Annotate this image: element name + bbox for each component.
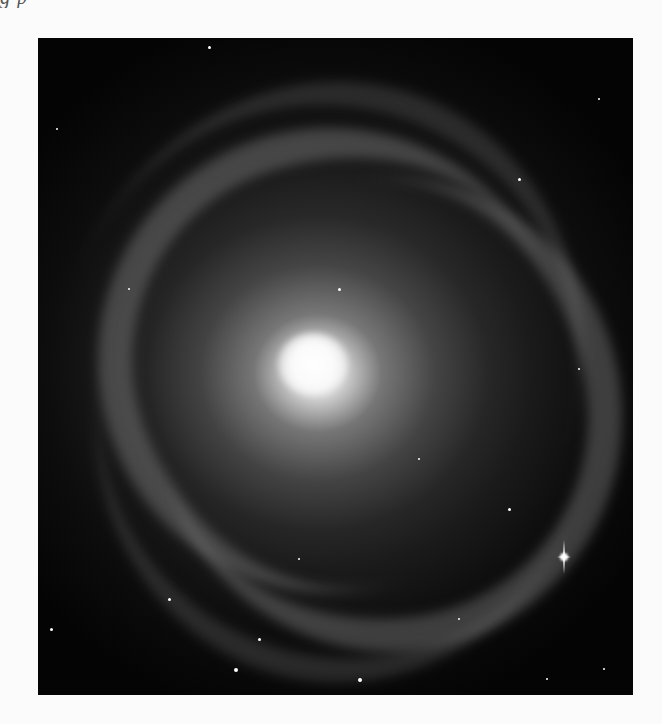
star: [458, 618, 460, 620]
star: [234, 668, 238, 672]
star: [50, 628, 53, 631]
star: [546, 678, 548, 680]
galaxy-photograph: [38, 38, 633, 695]
star: [208, 46, 211, 49]
star: [168, 598, 171, 601]
star: [56, 128, 58, 130]
star: [128, 288, 130, 290]
star: [418, 458, 420, 460]
cutoff-caption-text: g p: [0, 0, 662, 8]
star: [358, 678, 362, 682]
star: [518, 178, 521, 181]
star: [338, 288, 341, 291]
star: [508, 508, 511, 511]
star: [258, 638, 261, 641]
star: [298, 558, 300, 560]
galaxy-core: [278, 333, 348, 395]
bright-foreground-star: [557, 540, 571, 574]
star: [603, 668, 605, 670]
star: [578, 368, 580, 370]
star: [598, 98, 600, 100]
